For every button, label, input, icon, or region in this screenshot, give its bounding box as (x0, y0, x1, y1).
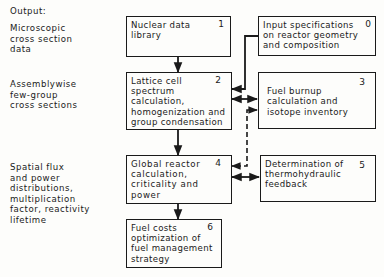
box-fuel-burnup-calculation: Fuel burnup calculation and isotope inve… (258, 72, 376, 129)
box-4-number: 4 (215, 158, 221, 168)
output-label-microscopic: Microscopic cross section data (10, 23, 72, 55)
box-thermohydraulic-feedback: Determination of thermohydraulic feedbac… (260, 155, 376, 202)
box-5-text: Determination of thermohydraulic feedbac… (265, 159, 344, 190)
box-3-number: 3 (359, 77, 365, 87)
box-0-number: 0 (365, 19, 371, 29)
output-heading: Output: (10, 6, 46, 17)
box-2-number: 2 (215, 75, 221, 85)
box-6-text: Fuel costs optimization of fuel manageme… (131, 223, 213, 264)
box-0-text: Input specifications on reactor geometry… (263, 20, 358, 51)
output-label-assemblywise: Assemblywise few-group cross sections (10, 79, 77, 111)
box-fuel-costs-optimization: Fuel costs optimization of fuel manageme… (126, 219, 222, 268)
box-lattice-cell-calculation: Lattice cell spectrum calculation, homog… (126, 72, 232, 130)
box-5-number: 5 (359, 160, 365, 170)
box-6-number: 6 (207, 222, 213, 232)
output-label-spatial: Spatial flux and power distributions, mu… (10, 162, 90, 226)
box-nuclear-data-library: Nuclear data library 1 (126, 16, 231, 57)
arrow-0-to-2 (232, 36, 258, 89)
arrow-4-3-dashed (232, 110, 257, 166)
box-2-text: Lattice cell spectrum calculation, homog… (131, 76, 225, 127)
box-1-number: 1 (218, 19, 224, 29)
box-3-text: Fuel burnup calculation and isotope inve… (267, 76, 348, 117)
box-input-specifications: Input specifications on reactor geometry… (258, 16, 376, 56)
box-global-reactor-calculation: Global reactor calculation, criticality … (126, 155, 232, 204)
box-4-text: Global reactor calculation, criticality … (131, 159, 200, 200)
box-1-text: Nuclear data library (131, 20, 190, 40)
